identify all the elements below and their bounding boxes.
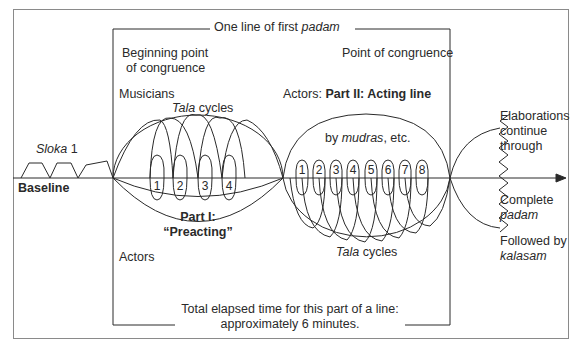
sloka-waves [21,161,113,178]
part2-bottom-arc [283,178,450,237]
total-time-line1: Total elapsed time for this part of a li… [170,302,410,317]
part1-cycle-1: 1 [151,180,163,193]
baseline-arrowhead [556,174,566,182]
sloka-italic: Sloka [36,142,67,156]
part2-cycle-2: 2 [313,164,325,177]
elaborations-line3: through [500,139,570,154]
part1-line2: “Preacting” [158,225,238,240]
followed-line2: kalasam [500,249,567,264]
sloka-number: 1 [67,142,77,156]
padam-structure-diagram: One line of first padam Beginning point … [0,0,577,354]
total-time-line2: approximately 6 minutes. [170,317,410,332]
part2-acting-line: Part II: Acting line [325,87,431,101]
part1-cycle-2: 2 [174,180,186,193]
tala-bottom-italic: Tala [336,245,359,259]
outer-frame [14,10,569,339]
elaborations-line2: continue [500,124,570,139]
top-bracket-label-italic: padam [302,20,340,34]
by-mudras-label: by mudras, etc. [325,131,410,146]
tala-italic: Tala [172,101,195,115]
tala-cycles-top-label: Tala cycles [172,101,233,116]
total-time-label: Total elapsed time for this part of a li… [170,302,410,332]
point-of-congruence-label: Point of congruence [342,46,453,61]
beginning-point-label: Beginning point of congruence [122,46,208,76]
complete-padam-label: Complete padam [500,193,554,223]
actors-prefix: Actors: [283,87,325,101]
tala-cycles-bottom-label: Tala cycles [336,245,397,260]
mudras-italic: mudras [342,131,384,145]
baseline-label: Baseline [18,181,69,196]
part2-cycle-3: 3 [330,164,342,177]
right-upper-arc [450,128,500,178]
actors-bottom-label: Actors [119,250,154,265]
followed-by-kalasam-label: Followed by kalasam [500,234,567,264]
elaborations-line1: Elaborations [500,109,570,124]
part2-cycle-8: 8 [416,164,428,177]
elaborations-label: Elaborations continue through [500,109,570,154]
beginning-point-line1: Beginning point [122,46,208,61]
by-suffix: , etc. [383,131,410,145]
musicians-label: Musicians [119,87,175,102]
part2-cycle-7: 7 [399,164,411,177]
part1-label: Part I: “Preacting” [158,210,238,240]
actors-part2-label: Actors: Part II: Acting line [283,87,431,102]
top-bracket-label: One line of first padam [214,20,340,35]
part2-cycle-5: 5 [365,164,377,177]
right-lower-arc [450,178,500,228]
followed-line1: Followed by [500,234,567,249]
part2-cycle-4: 4 [347,164,359,177]
part1-line1: Part I: [158,210,238,225]
part1-cycle-3: 3 [199,180,211,193]
complete-line1: Complete [500,193,554,208]
part1-cycle-4: 4 [223,180,235,193]
tala-rest: cycles [195,101,233,115]
diagram-drawing [0,0,577,354]
top-bracket-label-text: One line of first [214,20,302,34]
tala-bottom-rest: cycles [359,245,397,259]
sloka-label: Sloka 1 [36,142,78,157]
by-prefix: by [325,131,342,145]
part2-cycle-1: 1 [296,164,308,177]
beginning-point-line2: of congruence [122,61,208,76]
complete-line2: padam [500,208,554,223]
part2-cycle-6: 6 [382,164,394,177]
